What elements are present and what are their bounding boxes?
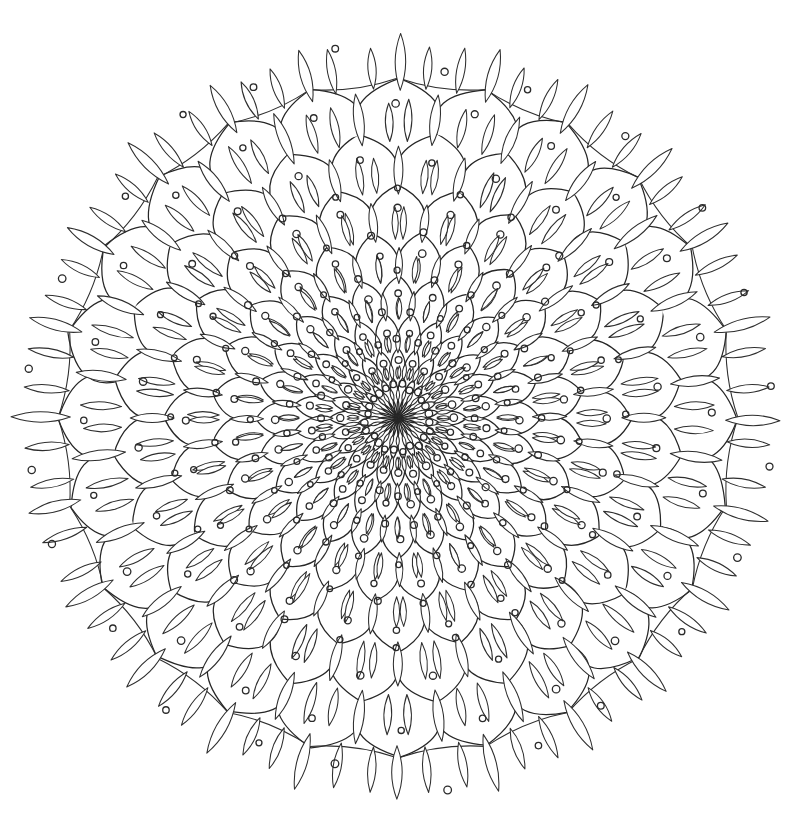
- leaf-spike-ring-4-junction-19-a: [397, 298, 402, 319]
- leaf-spike-ring-1-sector-19-center: [396, 388, 399, 400]
- leaf-spike-ring-1-sector-1-center: [415, 416, 427, 419]
- leaf-spike-ring-4-junction-7-a: [395, 517, 400, 538]
- leaf-spike-ring-4-junction-23-b: [497, 415, 518, 420]
- leaf-spike-ring-2-junction-19-a: [398, 366, 401, 379]
- mandala-artwork: [0, 0, 792, 830]
- leaf-spike-ring-1-sector-7-center: [396, 435, 399, 446]
- leaf-spike-ring-4-junction-13-a: [278, 415, 299, 420]
- coloring-page-canvas: [0, 0, 792, 830]
- leaf-spike-ring-2-junction-23-b: [437, 416, 450, 419]
- leaf-spike-ring-2-junction-13-a: [347, 415, 359, 418]
- leaf-spike-ring-3-sector-13-center: [311, 416, 333, 421]
- leaf-spike-ring-3-sector-1-center: [463, 416, 485, 421]
- leaf-spike-ring-2-junction-7-a: [396, 457, 399, 470]
